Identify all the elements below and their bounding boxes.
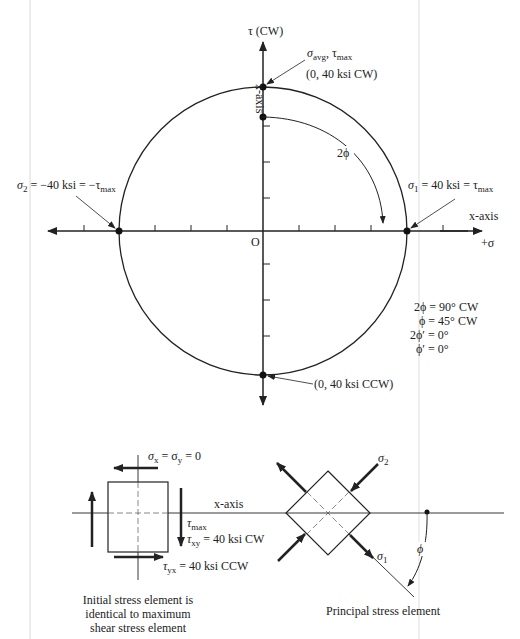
tau-axis-label: τ (CW) <box>248 24 283 38</box>
principal-stress-element: σ1 σ2 ϕ Principal stress element <box>277 451 441 618</box>
origin-label: O <box>251 235 260 249</box>
top-point-label-line2: (0, 40 ksi CW) <box>306 67 377 81</box>
horizontal-x-axis-label: x-axis <box>469 209 499 223</box>
two-phi-arc <box>263 117 383 223</box>
sigma2-element-label: σ2 <box>378 451 388 467</box>
initial-element-caption: Initial stress element is identical to m… <box>83 593 194 635</box>
bottom-point-label: (0, 40 ksi CCW) <box>314 377 393 391</box>
two-phi-label: 2ϕ <box>337 146 349 160</box>
principal-element-caption: Principal stress element <box>326 604 441 618</box>
point-sigma2 <box>116 228 123 235</box>
svg-text:2ϕ = 90° CW: 2ϕ = 90° CW <box>414 300 479 314</box>
svg-text:ϕ = 45° CW: ϕ = 45° CW <box>419 314 478 328</box>
sigma1-arrow-upper-left <box>277 463 306 492</box>
sigma1-arrow-lower-right <box>350 535 373 558</box>
tau-max-label: τmax <box>187 516 207 532</box>
element-x-axis-label: x-axis <box>214 497 244 511</box>
phi-label: ϕ <box>417 542 423 556</box>
sigma1-element-label: σ1 <box>377 549 387 565</box>
sigma-axis-label: +σ <box>481 236 495 250</box>
tau-yx-label: τyx = 40 ksi CCW <box>163 559 249 575</box>
svg-text:2ϕ′ = 0°: 2ϕ′ = 0° <box>410 328 449 342</box>
mohr-circle: 2ϕ τ (CW) x-axis x-axis +σ O σavg, τmax … <box>17 24 499 405</box>
normal-stress-label: σx = σy = 0 <box>148 449 201 465</box>
sigma1-label: σ1 = 40 ksi = τmax <box>408 178 494 194</box>
leader-bottom <box>268 376 313 384</box>
mohr-circle-diagram: 2ϕ τ (CW) x-axis x-axis +σ O σavg, τmax … <box>0 0 520 639</box>
svg-text:shear stress element: shear stress element <box>90 621 187 635</box>
sigma2-label: σ2 = −40 ksi = −τmax <box>17 178 116 194</box>
top-point-label-line1: σavg, τmax <box>307 46 353 62</box>
svg-text:ϕ′ = 0°: ϕ′ = 0° <box>416 342 449 356</box>
angle-results: 2ϕ = 90° CW ϕ = 45° CW 2ϕ′ = 0° ϕ′ = 0° <box>410 300 479 356</box>
leader-sigma1 <box>411 199 455 228</box>
point-sigma1 <box>404 228 411 235</box>
sigma2-arrow-lower-left <box>278 534 305 561</box>
leader-sigma2 <box>76 196 115 228</box>
vertical-x-axis-label: x-axis <box>253 84 267 114</box>
svg-text:identical to maximum: identical to maximum <box>85 607 191 621</box>
sigma2-arrow-upper-right <box>351 464 378 491</box>
svg-text:Initial stress element is: Initial stress element is <box>83 593 194 607</box>
leader-top <box>267 60 305 84</box>
tau-xy-label: τxy = 40 ksi CW <box>187 532 265 548</box>
point-bottom <box>260 372 267 379</box>
